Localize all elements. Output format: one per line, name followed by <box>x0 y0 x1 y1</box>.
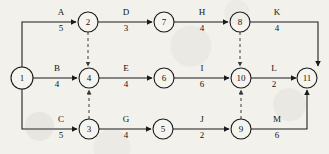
node-4-label: 4 <box>87 73 92 83</box>
node-5-label: 5 <box>161 124 166 134</box>
node-2[interactable]: 2 <box>78 12 98 32</box>
activity-C-duration: 5 <box>59 130 64 140</box>
activity-M-duration: 6 <box>275 130 280 140</box>
node-7[interactable]: 7 <box>154 12 174 32</box>
edge-C-1-to-3 <box>22 89 77 129</box>
activity-A-name: A <box>58 7 65 17</box>
node-7-label: 7 <box>162 17 167 27</box>
node-8[interactable]: 8 <box>230 12 250 32</box>
activity-I-duration: 6 <box>200 79 205 89</box>
node-10[interactable]: 10 <box>231 68 251 88</box>
node-10-label: 10 <box>237 73 247 83</box>
activity-L-duration: 2 <box>272 79 277 89</box>
activity-B-duration: 4 <box>55 79 60 89</box>
node-9-label: 9 <box>239 124 244 134</box>
node-8-label: 8 <box>238 17 243 27</box>
node-4[interactable]: 4 <box>79 68 99 88</box>
activity-I-name: I <box>201 63 204 73</box>
activity-E-name: E <box>123 63 129 73</box>
activity-K-name: K <box>274 7 281 17</box>
activity-G-duration: 4 <box>124 130 129 140</box>
edge-K-8-to-11 <box>250 22 318 66</box>
node-9[interactable]: 9 <box>231 119 251 139</box>
activity-E-duration: 4 <box>124 79 129 89</box>
activity-D-duration: 3 <box>124 23 129 33</box>
activity-H-duration: 4 <box>200 23 205 33</box>
network-diagram-svg: 1 2 3 4 5 6 7 8 <box>0 0 329 154</box>
activity-B-name: B <box>54 63 60 73</box>
node-6-label: 6 <box>162 73 167 83</box>
node-3[interactable]: 3 <box>79 119 99 139</box>
node-11-label: 11 <box>303 73 312 83</box>
node-3-label: 3 <box>87 124 92 134</box>
activity-C-name: C <box>58 114 64 124</box>
activity-J-name: J <box>200 114 204 124</box>
node-1[interactable]: 1 <box>11 67 33 89</box>
activity-M-name: M <box>273 114 281 124</box>
node-11[interactable]: 11 <box>297 68 317 88</box>
activity-J-duration: 2 <box>200 130 205 140</box>
node-6[interactable]: 6 <box>154 68 174 88</box>
activity-H-name: H <box>199 7 206 17</box>
activity-K-duration: 4 <box>275 23 280 33</box>
activity-D-name: D <box>123 7 130 17</box>
edge-A-1-to-2 <box>22 22 76 67</box>
node-1-label: 1 <box>20 73 25 83</box>
activity-G-name: G <box>123 114 130 124</box>
activity-L-name: L <box>271 63 277 73</box>
node-5[interactable]: 5 <box>153 119 173 139</box>
node-2-label: 2 <box>86 17 91 27</box>
activity-A-duration: 5 <box>59 23 64 33</box>
network-diagram-canvas: 1 2 3 4 5 6 7 8 <box>0 0 329 154</box>
